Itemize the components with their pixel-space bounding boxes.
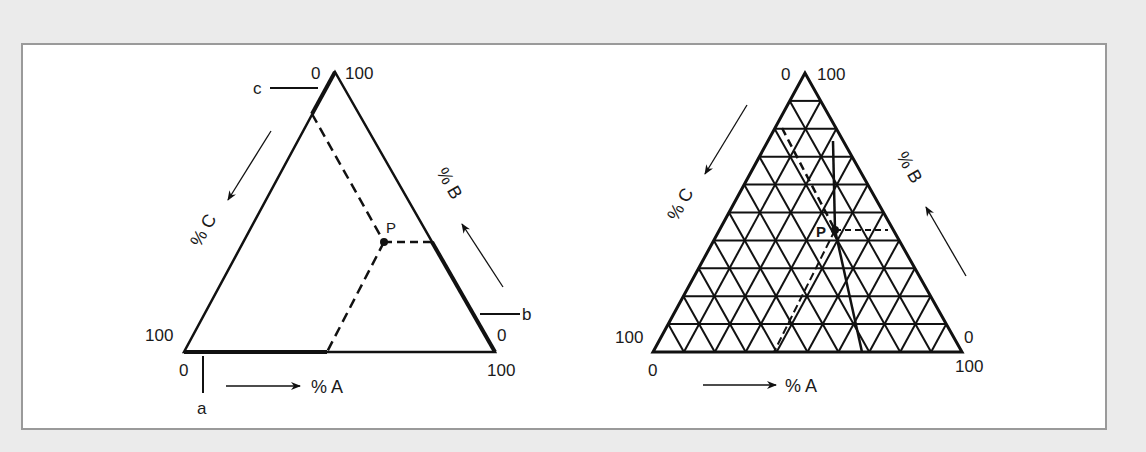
segment-b xyxy=(432,242,495,352)
left-corner-label: 100 xyxy=(145,326,173,345)
arrow-c-icon xyxy=(705,105,747,174)
arrow-b-icon xyxy=(926,207,966,276)
marker-c-label: c xyxy=(253,79,262,98)
ternary-grid xyxy=(668,101,946,352)
marker-a-label: a xyxy=(197,399,207,418)
arrow-c-icon xyxy=(228,131,271,200)
base-left-label: 0 xyxy=(648,361,657,380)
apex-label-right: 100 xyxy=(817,65,845,84)
right-ternary-diagram: P 0 100 100 0 0 100 % C % B % A xyxy=(615,65,983,396)
left-ternary-diagram: P c b a 0 100 100 0 0 100 % C % B % A xyxy=(145,64,531,418)
axis-a-label: % A xyxy=(785,376,817,396)
axis-c-label: % C xyxy=(186,211,220,250)
base-right-label: 100 xyxy=(955,357,983,376)
left-triangle-outline xyxy=(184,72,495,352)
dashed-line-c xyxy=(312,114,384,242)
base-left-label: 0 xyxy=(179,361,188,380)
dashed-line-a xyxy=(327,242,384,352)
base-right-label: 100 xyxy=(487,361,515,380)
apex-label-left: 0 xyxy=(781,65,790,84)
point-p xyxy=(380,238,388,246)
axis-b-label: % B xyxy=(433,164,467,203)
axis-b-label: % B xyxy=(893,148,927,187)
arrow-b-icon xyxy=(462,224,503,287)
apex-label-left: 0 xyxy=(311,64,320,83)
marker-b-label: b xyxy=(522,305,531,324)
ternary-diagrams: P c b a 0 100 100 0 0 100 % C % B % A P xyxy=(0,0,1146,452)
right-corner-label: 0 xyxy=(497,326,506,345)
left-corner-label: 100 xyxy=(615,328,643,347)
solid-line-vertical xyxy=(833,141,835,230)
point-p-label: P xyxy=(386,219,396,236)
right-corner-label: 0 xyxy=(964,328,973,347)
axis-a-label: % A xyxy=(311,377,343,397)
apex-label-right: 100 xyxy=(345,64,373,83)
point-p xyxy=(831,226,839,234)
axis-c-label: % C xyxy=(663,185,697,224)
point-p-label: P xyxy=(816,223,826,240)
